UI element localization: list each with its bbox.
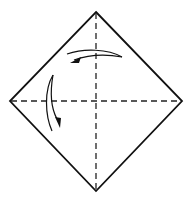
origami-diagram bbox=[0, 0, 192, 197]
